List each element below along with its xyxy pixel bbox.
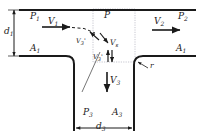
label-vs: Vs (110, 39, 118, 47)
velocity-arrow-vs (100, 33, 108, 43)
label-radius-r: r (150, 62, 154, 70)
lower-wall-right-and-branch (134, 56, 196, 131)
label-a1-left: A1 (30, 44, 40, 53)
label-v3-prime-upper: V3' (76, 38, 86, 45)
label-v3-prime-lower: V3' (93, 54, 103, 61)
streamline-dashed (72, 28, 95, 34)
label-a3: A3 (112, 108, 122, 117)
label-a1-right: A1 (176, 44, 186, 53)
label-p2: P2 (178, 12, 188, 21)
label-v3: V3 (110, 76, 120, 85)
label-p3: P3 (83, 108, 93, 117)
label-v2: V2 (154, 17, 164, 26)
lower-wall-left-and-branch (19, 56, 74, 131)
label-p-bar: P (104, 11, 110, 20)
leader-line-radius (138, 62, 148, 68)
label-p1: P1 (30, 12, 40, 21)
label-v1: V1 (48, 17, 58, 26)
label-d3: d3 (96, 122, 106, 131)
label-d1: d1 (4, 27, 14, 36)
tee-junction-diagram: d1 P1 V1 P V2 P2 A1 A1 V3' Vs V3' V3 r P… (0, 0, 202, 140)
diagram-vector-graphics (0, 0, 202, 140)
